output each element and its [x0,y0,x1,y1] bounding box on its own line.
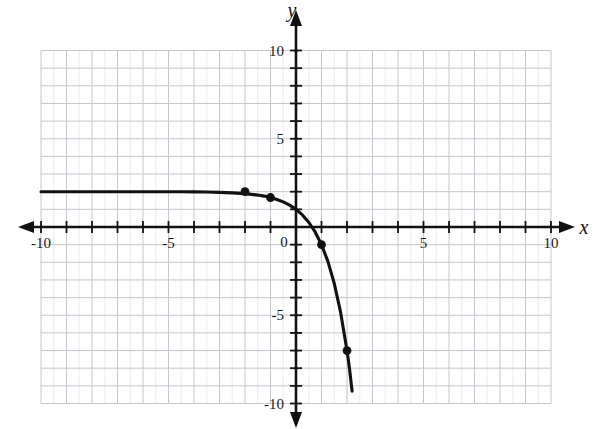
data-point [241,187,250,196]
data-point [317,240,326,249]
x-tick-label: 5 [420,235,428,251]
y-tick-label: 10 [269,43,284,59]
x-tick-label: 10 [544,235,559,251]
y-tick-label: -5 [272,307,285,323]
graph-figure: -10-50510 105-5-10 x y [0,0,598,429]
y-tick-label: 5 [277,131,285,147]
x-tick-label: -5 [162,235,175,251]
data-point [343,346,352,355]
data-point [266,193,275,202]
x-axis-label: x [579,216,589,238]
coordinate-plane: -10-50510 105-5-10 x y [0,0,598,429]
x-tick-label: -10 [31,235,51,251]
y-axis-label: y [286,0,297,22]
y-tick-label: -10 [264,396,284,412]
x-tick-label-origin: 0 [280,234,288,250]
figure-background [0,0,598,429]
